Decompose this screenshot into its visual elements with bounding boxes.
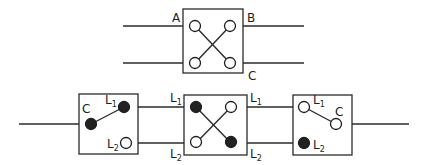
label-c: C: [248, 69, 256, 83]
right-terminal-l2: [299, 138, 310, 149]
top-terminal-bottom-left: [190, 58, 201, 69]
middle-label-left-l2: L2: [170, 147, 182, 163]
left-label-c: C: [82, 102, 90, 116]
top-terminal-top-left: [190, 21, 201, 32]
label-a: A: [172, 11, 181, 25]
middle-label-left-l1: L1: [170, 91, 182, 107]
left-two-way-switch: C L1 L2: [79, 93, 138, 154]
left-terminal-l2: [121, 138, 132, 149]
middle-terminal-top-right: [226, 102, 237, 113]
right-label-c: C: [335, 105, 343, 119]
right-terminal-common: [331, 119, 342, 130]
middle-label-right-l2: L2: [250, 147, 262, 163]
left-terminal-l1: [119, 102, 130, 113]
right-terminal-l1: [299, 102, 310, 113]
middle-terminal-bottom-right: [226, 137, 237, 148]
label-b: B: [247, 11, 255, 25]
middle-label-right-l1: L1: [250, 91, 262, 107]
middle-intermediate-switch: L1 L2 L1 L2: [170, 91, 262, 163]
middle-terminal-top-left: [191, 102, 202, 113]
top-terminal-top-right: [225, 21, 236, 32]
right-two-way-switch: L1 C L2: [293, 93, 352, 155]
switch-wiring-diagram: A B C C L1 L2 L1 L2 L1 L2: [0, 0, 431, 165]
middle-terminal-bottom-left: [191, 137, 202, 148]
left-terminal-common: [86, 119, 97, 130]
top-intermediate-switch: A B C: [123, 9, 304, 83]
top-terminal-bottom-right: [225, 58, 236, 69]
